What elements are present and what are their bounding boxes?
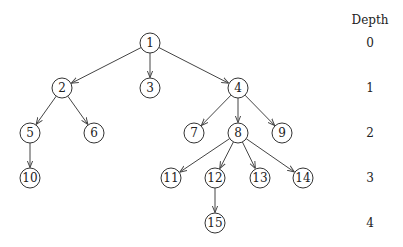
edge-8-14 [246, 139, 294, 172]
edge-8-11 [180, 139, 230, 173]
tree-node-12: 12 [205, 168, 225, 188]
node-label: 1 [146, 36, 154, 50]
tree-node-3: 3 [140, 78, 160, 98]
node-label: 12 [207, 171, 222, 185]
edge-1-4 [159, 48, 229, 84]
depth-level-3: 3 [366, 171, 374, 185]
tree-node-5: 5 [20, 123, 40, 143]
edge-1-2 [71, 48, 141, 84]
tree-node-1: 1 [140, 33, 160, 53]
node-label: 5 [26, 126, 34, 140]
node-label: 6 [90, 126, 98, 140]
node-label: 2 [58, 81, 66, 95]
nodes-layer: 123456789101112131415 [20, 33, 313, 233]
tree-node-6: 6 [84, 123, 104, 143]
depth-axis: Depth 01234 [352, 13, 389, 230]
tree-node-2: 2 [52, 78, 72, 98]
edge-8-13 [242, 142, 255, 169]
tree-node-14: 14 [293, 168, 313, 188]
tree-node-9: 9 [272, 123, 292, 143]
edge-2-5 [36, 96, 56, 124]
node-label: 3 [146, 81, 154, 95]
node-label: 8 [234, 126, 242, 140]
edge-2-6 [68, 96, 88, 124]
node-label: 13 [252, 171, 267, 185]
depth-level-2: 2 [366, 126, 374, 140]
node-label: 9 [278, 126, 286, 140]
node-label: 7 [190, 126, 198, 140]
tree-node-8: 8 [228, 123, 248, 143]
edge-4-9 [245, 95, 275, 125]
node-label: 4 [234, 81, 242, 95]
depth-level-4: 4 [366, 216, 374, 230]
node-label: 10 [22, 171, 37, 185]
depth-level-1: 1 [366, 81, 374, 95]
tree-svg: 123456789101112131415 Depth 01234 [0, 0, 403, 247]
edges-layer [30, 48, 294, 213]
depth-header: Depth [352, 13, 389, 27]
tree-node-7: 7 [184, 123, 204, 143]
tree-node-15: 15 [205, 213, 225, 233]
node-label: 14 [295, 171, 311, 185]
tree-node-4: 4 [228, 78, 248, 98]
node-label: 11 [163, 171, 178, 185]
tree-node-10: 10 [20, 168, 40, 188]
tree-node-13: 13 [250, 168, 270, 188]
edge-8-12 [220, 142, 234, 169]
depth-level-0: 0 [366, 36, 374, 50]
tree-node-11: 11 [161, 168, 181, 188]
edge-4-7 [201, 95, 231, 125]
node-label: 15 [207, 216, 222, 230]
tree-diagram: 123456789101112131415 Depth 01234 [0, 0, 403, 247]
